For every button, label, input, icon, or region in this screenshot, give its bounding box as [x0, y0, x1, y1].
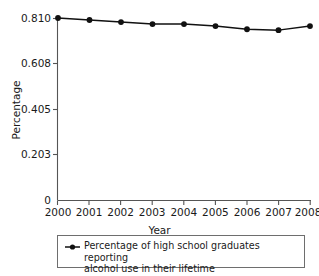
- line-chart-svg: Percentage 0.810 0.608 0.405 0.203 0: [0, 0, 319, 226]
- y-tick-label-0203: 0.203: [21, 148, 51, 160]
- x-tick-label-2004: 2004: [170, 206, 197, 218]
- x-tick-label-2006: 2006: [234, 206, 261, 218]
- y-tick-label-0: 0: [44, 194, 51, 206]
- y-tick-label-0810: 0.810: [21, 12, 51, 24]
- x-tick-label-2003: 2003: [139, 206, 166, 218]
- data-point-2003: [150, 21, 156, 27]
- data-point-2000: [55, 15, 61, 21]
- x-tick-label-2007: 2007: [265, 206, 292, 218]
- line-circle-marker-icon: [64, 242, 81, 254]
- data-point-2001: [87, 17, 93, 23]
- data-point-2006: [244, 26, 250, 32]
- data-point-2004: [181, 21, 187, 27]
- data-point-2005: [213, 23, 219, 29]
- legend-entry-label: Percentage of high school graduates repo…: [84, 240, 299, 275]
- chart-figure: Percentage 0.810 0.608 0.405 0.203 0: [0, 0, 319, 276]
- x-tick-label-2002: 2002: [107, 206, 134, 218]
- x-tick-label-2005: 2005: [202, 206, 229, 218]
- data-point-2002: [118, 19, 124, 25]
- x-tick-label-2008: 2008: [295, 206, 319, 218]
- plot-area: Percentage 0.810 0.608 0.405 0.203 0: [0, 0, 319, 226]
- x-tick-label-2001: 2001: [76, 206, 103, 218]
- data-point-2007: [276, 27, 282, 33]
- data-point-2008: [307, 23, 313, 29]
- chart-legend: Percentage of high school graduates repo…: [57, 235, 305, 268]
- y-tick-label-0405: 0.405: [21, 103, 51, 115]
- y-tick-label-0608: 0.608: [21, 57, 51, 69]
- x-tick-label-2000: 2000: [45, 206, 72, 218]
